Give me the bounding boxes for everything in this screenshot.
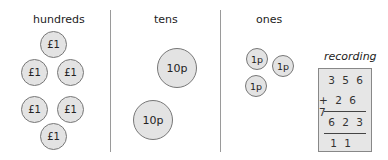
pound-coin: £1 bbox=[40, 123, 67, 150]
ten-pence-coin: 10p bbox=[157, 48, 197, 88]
pound-coin: £1 bbox=[21, 96, 48, 123]
heading-ones: ones bbox=[256, 13, 282, 26]
pound-coin: £1 bbox=[40, 31, 67, 58]
ten-pence-coin: 10p bbox=[133, 100, 173, 140]
addend-2: + 2 6 7 bbox=[319, 94, 365, 118]
recording-title: recording bbox=[324, 50, 377, 63]
heading-tens: tens bbox=[154, 13, 178, 26]
addend-1: 3 5 6 bbox=[328, 74, 365, 86]
carries: 1 1 bbox=[330, 137, 353, 149]
one-penny-coin: 1p bbox=[272, 55, 294, 77]
heading-hundreds: hundreds bbox=[33, 13, 85, 26]
one-penny-coin: 1p bbox=[246, 48, 268, 70]
column-divider bbox=[110, 10, 111, 152]
pound-coin: £1 bbox=[21, 59, 48, 86]
sum-line bbox=[324, 111, 366, 112]
sum: 6 2 3 bbox=[328, 116, 365, 128]
pound-coin: £1 bbox=[57, 96, 84, 123]
carry-line bbox=[324, 133, 366, 134]
one-penny-coin: 1p bbox=[245, 75, 267, 97]
recording-box: 3 5 6 + 2 6 7 6 2 3 1 1 bbox=[318, 68, 372, 152]
pound-coin: £1 bbox=[57, 59, 84, 86]
column-divider bbox=[220, 10, 221, 152]
